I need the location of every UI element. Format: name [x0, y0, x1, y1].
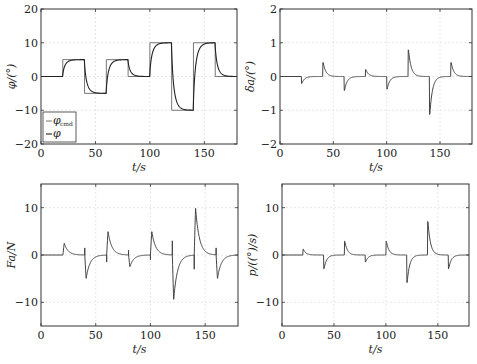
y-tick-label: −20 — [15, 138, 38, 151]
y-axis-label: Fa/N — [5, 241, 18, 269]
y-tick-label: 0 — [31, 249, 38, 262]
subplot-Fa: 050100150−10010t/sFa/N — [5, 184, 238, 356]
x-tick-label: 0 — [279, 329, 286, 342]
x-axis-label: t/s — [133, 343, 147, 356]
x-tick-label: 50 — [88, 147, 102, 160]
subplot-p: 050100150−10010t/sp/((°)/s) — [246, 184, 469, 356]
y-tick-label: −1 — [261, 104, 277, 117]
y-axis-label: δa/(°) — [244, 61, 257, 92]
x-axis-label: t/s — [369, 343, 383, 356]
x-tick-label: 0 — [38, 147, 45, 160]
subplot-delta_a: 050100150−2−1012t/sδa/(°) — [244, 3, 472, 174]
y-tick-label: 2 — [270, 3, 277, 16]
x-tick-label: 100 — [140, 329, 161, 342]
x-axis-label: t/s — [369, 161, 383, 174]
y-tick-label: −10 — [15, 296, 38, 309]
x-tick-label: 100 — [375, 329, 396, 342]
y-tick-label: 10 — [265, 202, 279, 215]
x-axis-label: t/s — [132, 161, 146, 174]
series-delta_a — [280, 50, 472, 115]
x-tick-label: 150 — [427, 329, 448, 342]
x-tick-label: 50 — [89, 329, 103, 342]
x-tick-label: 150 — [194, 147, 215, 160]
series-p — [282, 221, 469, 282]
x-tick-label: 50 — [326, 147, 340, 160]
y-tick-label: 10 — [24, 202, 38, 215]
y-axis-label: φ/(°) — [5, 64, 18, 90]
y-tick-label: 10 — [24, 37, 38, 50]
figure: 050100150−20−1001020t/sφ/(°)φcmdφ0501001… — [0, 0, 477, 364]
x-tick-label: 0 — [277, 147, 284, 160]
x-tick-label: 50 — [327, 329, 341, 342]
legend-entry-phi: φ — [53, 127, 61, 140]
x-tick-label: 0 — [38, 329, 45, 342]
legend: φcmdφ — [43, 112, 76, 142]
series-Fa — [41, 208, 238, 299]
y-tick-label: −2 — [261, 138, 277, 151]
svg-text:cmd: cmd — [60, 120, 73, 127]
y-tick-label: 1 — [270, 37, 277, 50]
x-tick-label: 100 — [376, 147, 397, 160]
y-axis-label: p/((°)/s) — [246, 234, 259, 277]
y-tick-label: 0 — [31, 71, 38, 84]
x-tick-label: 100 — [139, 147, 160, 160]
subplot-phi: 050100150−20−1001020t/sφ/(°)φcmdφ — [5, 3, 237, 174]
y-tick-label: 0 — [270, 71, 277, 84]
x-tick-label: 150 — [195, 329, 216, 342]
y-tick-label: 0 — [272, 249, 279, 262]
x-tick-label: 150 — [430, 147, 451, 160]
y-tick-label: −10 — [15, 104, 38, 117]
y-tick-label: 20 — [24, 3, 38, 16]
y-tick-label: −10 — [256, 296, 279, 309]
